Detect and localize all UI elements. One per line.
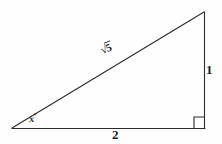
degree-symbol-icon: ° [34,112,37,120]
vertical-leg-label: 1 [206,63,213,76]
math-figure-right-triangle: 1 2 x° √5 [0,0,222,144]
right-angle-square-icon [194,117,205,128]
angle-label: x° [29,113,37,125]
horizontal-leg-label: 2 [112,128,119,141]
hypotenuse-line [12,12,204,128]
